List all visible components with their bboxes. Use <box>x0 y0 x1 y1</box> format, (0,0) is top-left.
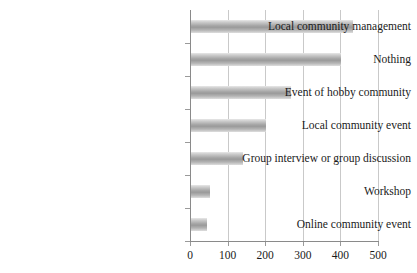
x-tick-label: 400 <box>320 249 360 262</box>
y-axis-tick <box>185 142 190 143</box>
bar <box>191 185 210 198</box>
category-label: Event of hobby community <box>233 86 417 99</box>
y-axis-tick <box>185 43 190 44</box>
x-axis-tick <box>378 242 379 246</box>
y-axis-tick <box>185 76 190 77</box>
x-axis-tick <box>190 242 191 246</box>
x-tick-label: 200 <box>245 249 285 262</box>
x-axis-tick <box>228 242 229 246</box>
x-axis-line <box>190 241 379 242</box>
category-label: Local community management <box>233 20 417 33</box>
x-tick-label: 300 <box>283 249 323 262</box>
x-axis-tick <box>303 242 304 246</box>
y-axis-tick <box>185 175 190 176</box>
bar <box>191 218 207 231</box>
x-axis-tick <box>340 242 341 246</box>
category-label: Nothing <box>233 53 417 66</box>
category-label: Group interview or group discussion <box>233 152 417 165</box>
category-label: Local community event <box>233 119 417 132</box>
x-tick-label: 100 <box>208 249 248 262</box>
x-axis-tick <box>265 242 266 246</box>
y-axis-line <box>190 10 191 242</box>
category-label: Workshop <box>233 185 417 198</box>
x-tick-label: 0 <box>170 249 210 262</box>
y-axis-tick <box>185 208 190 209</box>
category-label: Online community event <box>233 218 417 231</box>
x-tick-label: 500 <box>358 249 398 262</box>
bar-chart: Local community managementNothingEvent o… <box>0 0 417 273</box>
y-axis-tick <box>185 109 190 110</box>
